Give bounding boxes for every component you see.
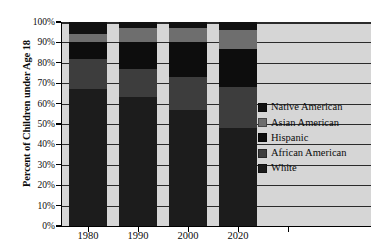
bar-segment-asian-american (119, 28, 157, 42)
x-axis-tick-mark (238, 227, 239, 232)
bar-segment-native-american (169, 22, 207, 28)
legend-label: White (271, 163, 297, 174)
bar-segment-native-american (219, 22, 257, 30)
y-axis-tick-mark (56, 21, 61, 22)
bar-1980 (69, 22, 107, 226)
bar-segment-white (169, 110, 207, 226)
legend-swatch-icon (258, 118, 267, 127)
gridline (62, 83, 371, 84)
bar-segment-asian-american (219, 30, 257, 48)
bar-segment-hispanic (219, 49, 257, 88)
gridline (62, 42, 371, 43)
y-axis-tick-label: 10% (11, 201, 55, 211)
x-axis-tick-mark (88, 227, 89, 232)
y-axis-tick-label: 90% (11, 37, 55, 47)
bar-segment-hispanic (119, 42, 157, 69)
y-axis-tick-label: 50% (11, 119, 55, 129)
bar-segment-asian-american (69, 34, 107, 42)
y-axis-tick-mark (56, 123, 61, 124)
legend-swatch-icon (258, 133, 267, 142)
y-axis-tick-label: 100% (11, 17, 55, 27)
bar-segment-african-american (69, 59, 107, 90)
gridline (62, 63, 371, 64)
legend-label: African American (271, 148, 347, 159)
legend-label: Hispanic (271, 133, 308, 144)
legend-swatch-icon (258, 149, 267, 158)
y-axis-tick-mark (56, 144, 61, 145)
legend-item[interactable]: African American (258, 146, 347, 161)
y-axis-tick-mark (56, 62, 61, 63)
bar-segment-native-american (119, 22, 157, 28)
gridline (62, 206, 371, 207)
x-axis-tick-mark (138, 227, 139, 232)
legend-swatch-icon (258, 164, 267, 173)
legend-item[interactable]: Hispanic (258, 130, 347, 145)
bar-segment-hispanic (69, 42, 107, 58)
stacked-bar-chart: Percent of Children under Age 18 0%10%20… (0, 0, 376, 252)
legend-item[interactable]: Asian American (258, 115, 347, 130)
y-axis-tick-label: 80% (11, 58, 55, 68)
legend-label: Asian American (271, 118, 339, 129)
y-axis-tick-mark (56, 185, 61, 186)
x-axis-tick-mark (288, 227, 289, 232)
bar-segment-white (119, 97, 157, 226)
y-axis-tick-label: 60% (11, 99, 55, 109)
y-axis-tick-label: 20% (11, 180, 55, 190)
chart-legend: Native AmericanAsian AmericanHispanicAfr… (258, 100, 347, 176)
y-axis-tick-label: 40% (11, 139, 55, 149)
legend-swatch-icon (258, 103, 267, 112)
legend-item[interactable]: Native American (258, 100, 347, 115)
bar-segment-african-american (219, 87, 257, 128)
y-axis-tick-label: 30% (11, 160, 55, 170)
bar-segment-white (219, 128, 257, 226)
bar-segment-native-american (69, 22, 107, 34)
x-axis-tick-mark (188, 227, 189, 232)
bar-segment-asian-american (169, 28, 207, 42)
y-axis-tick-label: 70% (11, 78, 55, 88)
bar-1990 (119, 22, 157, 226)
y-axis-tick-mark (56, 103, 61, 104)
gridline (62, 185, 371, 186)
y-axis-tick-mark (56, 83, 61, 84)
y-axis-tick-mark (56, 205, 61, 206)
y-axis-tick-label: 0% (11, 221, 55, 231)
y-axis-tick-mark (56, 225, 61, 226)
bar-2000 (169, 22, 207, 226)
legend-item[interactable]: White (258, 161, 347, 176)
bar-segment-african-american (169, 77, 207, 110)
bar-2020 (219, 22, 257, 226)
legend-label: Native American (271, 102, 342, 113)
y-axis-tick-mark (56, 164, 61, 165)
bar-segment-african-american (119, 69, 157, 98)
y-axis-tick-mark (56, 42, 61, 43)
gridline (62, 22, 371, 24)
bar-segment-white (69, 89, 107, 226)
bar-segment-hispanic (169, 42, 207, 77)
